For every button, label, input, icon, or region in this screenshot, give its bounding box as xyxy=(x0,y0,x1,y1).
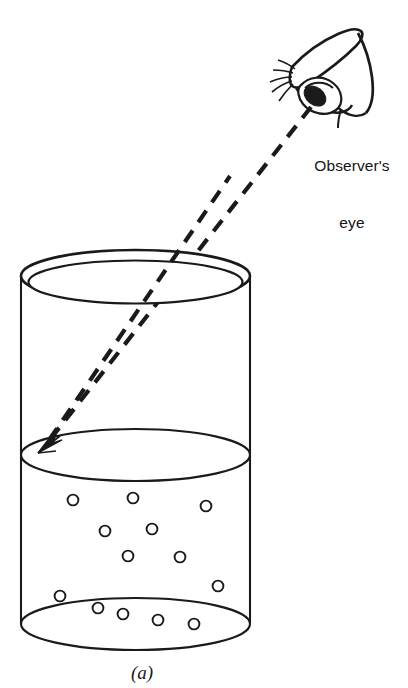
particle xyxy=(68,495,79,506)
particle xyxy=(100,526,111,537)
figure-panel-a: Observer's eye (a) xyxy=(0,0,408,688)
sight-ray-over-opening xyxy=(45,176,230,446)
particle xyxy=(189,619,200,630)
cylinder-top-rim-inner xyxy=(29,261,243,304)
particle xyxy=(123,551,134,562)
particle xyxy=(93,603,104,614)
figure-illustration xyxy=(0,0,408,688)
observer-eye-label: Observer's eye xyxy=(300,118,404,270)
observer-eye-illustration xyxy=(270,29,373,128)
particle xyxy=(55,591,66,602)
particle xyxy=(128,493,139,504)
sight-ray-segment-through-opening xyxy=(45,176,230,446)
liquid-surface-ellipse xyxy=(21,429,250,481)
particle xyxy=(201,501,212,512)
cylinder-bottom-ellipse xyxy=(21,598,250,650)
particle xyxy=(213,581,224,592)
panel-caption: (a) xyxy=(131,662,153,684)
eyelash-5 xyxy=(278,60,295,69)
particle xyxy=(118,609,129,620)
observer-eye-label-line-2: eye xyxy=(300,213,404,232)
eyelash-3 xyxy=(272,81,292,92)
particle xyxy=(175,552,186,563)
particle xyxy=(147,524,158,535)
particle xyxy=(153,615,164,626)
observer-eye-label-line-1: Observer's xyxy=(300,156,404,175)
eye-outer-contour xyxy=(358,33,373,113)
